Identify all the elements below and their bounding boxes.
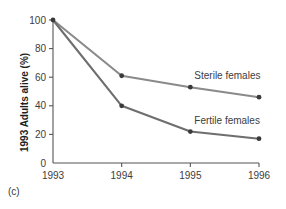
x-tick-label: 1995 [179, 170, 202, 181]
data-point [119, 103, 124, 108]
y-tick-label: 40 [35, 100, 47, 111]
data-point [188, 85, 193, 90]
x-tick-label: 1996 [248, 170, 271, 181]
x-tick-label: 1994 [111, 170, 134, 181]
data-point [257, 136, 262, 141]
panel-label: (c) [8, 186, 20, 197]
line-chart: 020406080100 1993199419951996 1993 Adult… [0, 0, 286, 209]
series-label-0: Sterile females [194, 70, 260, 81]
y-axis-tick-labels: 020406080100 [29, 15, 46, 169]
series-label-1: Fertile females [194, 115, 260, 126]
x-axis-ticks [122, 163, 259, 167]
data-point [119, 73, 124, 78]
data-point [257, 95, 262, 100]
y-tick-label: 60 [35, 72, 47, 83]
y-tick-label: 80 [35, 43, 47, 54]
y-tick-label: 20 [35, 129, 47, 140]
data-point [188, 129, 193, 134]
y-tick-label: 100 [29, 15, 46, 26]
figure-panel: 020406080100 1993199419951996 1993 Adult… [0, 0, 286, 209]
data-point [51, 18, 56, 23]
x-axis-tick-labels: 1993199419951996 [42, 170, 271, 181]
y-axis-title: 1993 Adults alive (%) [19, 53, 30, 152]
series-annotations: Sterile femalesFertile females [194, 70, 260, 125]
y-axis-ticks [49, 20, 53, 134]
x-tick-label: 1993 [42, 170, 65, 181]
y-tick-label: 0 [40, 158, 46, 169]
